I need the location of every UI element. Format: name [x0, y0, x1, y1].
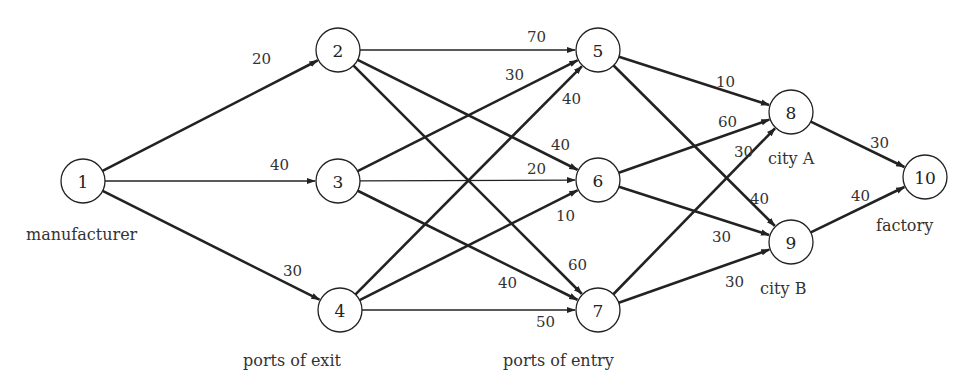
node-10: 10: [903, 155, 947, 199]
node-8: 8: [769, 90, 813, 134]
edge-7-9: [619, 250, 770, 303]
node-label: 6: [593, 171, 604, 191]
edge-8-10: [811, 122, 905, 167]
node-label: 10: [914, 168, 936, 188]
edge-label-8-10: 30: [870, 134, 889, 152]
edge-label-3-6: 20: [527, 160, 546, 178]
edge-label-4-6: 10: [556, 207, 575, 225]
node-3: 3: [316, 159, 360, 203]
edge-label-3-5: 30: [505, 66, 524, 84]
edge-label-4-7: 50: [536, 313, 555, 331]
caption-factory: factory: [876, 216, 933, 235]
edge-1-4: [103, 191, 320, 300]
edge-label-1-2: 20: [252, 50, 271, 68]
edge-1-2: [103, 61, 318, 171]
node-7: 7: [576, 288, 620, 332]
caption-city-b: city B: [760, 279, 806, 298]
node-label: 7: [593, 301, 604, 321]
caption-city-a: city A: [768, 149, 815, 168]
edge-label-6-9: 30: [712, 228, 731, 246]
node-label: 4: [335, 301, 346, 321]
edge-label-1-3: 40: [270, 156, 289, 174]
edge-5-8: [619, 57, 769, 105]
edge-label-7-8: 30: [734, 143, 753, 161]
edge-label-1-4: 30: [283, 262, 302, 280]
edge-label-3-7: 40: [498, 274, 517, 292]
edge-label-5-8: 10: [716, 73, 735, 91]
edges-layer: [103, 50, 905, 310]
node-1: 1: [61, 159, 105, 203]
network-svg: 2040307040603020404010501040603030303040…: [0, 0, 974, 385]
edge-label-6-8: 60: [718, 113, 737, 131]
node-label: 3: [333, 172, 344, 192]
node-4: 4: [318, 288, 362, 332]
caption-manufacturer: manufacturer: [26, 225, 138, 244]
node-label: 1: [78, 172, 89, 192]
node-label: 9: [786, 233, 797, 253]
node-label: 5: [593, 41, 604, 61]
node-6: 6: [576, 158, 620, 202]
edge-label-4-5: 40: [562, 90, 581, 108]
edge-label-2-5: 70: [527, 28, 546, 46]
node-9: 9: [769, 220, 813, 264]
edge-label-5-9: 40: [750, 190, 769, 208]
caption-ports-of-exit: ports of exit: [243, 351, 342, 370]
node-label: 8: [786, 103, 797, 123]
edge-label-9-10: 40: [851, 187, 870, 205]
caption-ports-of-entry: ports of entry: [503, 351, 614, 370]
edge-label-2-6: 40: [551, 136, 570, 154]
node-5: 5: [576, 28, 620, 72]
node-2: 2: [316, 28, 360, 72]
edge-label-7-9: 30: [725, 273, 744, 291]
node-label: 2: [333, 41, 344, 61]
edge-label-2-7: 60: [568, 256, 587, 274]
network-diagram: 2040307040603020404010501040603030303040…: [0, 0, 974, 385]
